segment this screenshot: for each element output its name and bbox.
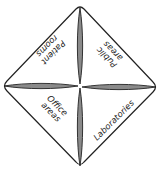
petal-left bbox=[4, 83, 78, 88]
petal-bottom bbox=[77, 88, 82, 166]
quadrant-diamond-diagram bbox=[0, 0, 160, 169]
petal-top bbox=[77, 8, 82, 84]
petal-right bbox=[82, 84, 156, 89]
